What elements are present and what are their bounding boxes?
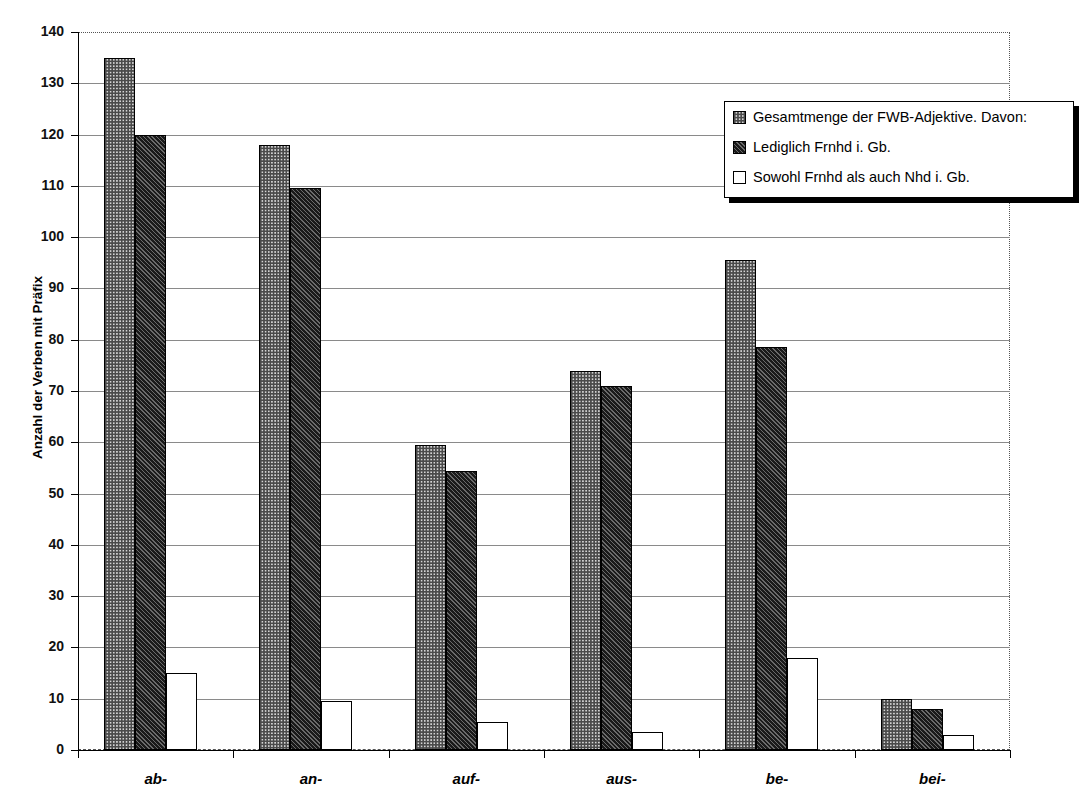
x-tick-label-aus: aus- — [562, 770, 682, 787]
x-tick-label-ab: ab- — [96, 770, 216, 787]
bar-ab-series-1 — [135, 135, 166, 750]
bar-auf-series-1 — [446, 471, 477, 751]
y-tick-label: 120 — [18, 126, 64, 142]
legend-label-2: Sowohl Frnhd als auch Nhd i. Gb. — [753, 169, 970, 185]
bar-ab-series-0 — [104, 58, 135, 750]
y-tick-label: 140 — [18, 23, 64, 39]
y-tick-label: 0 — [18, 741, 64, 757]
y-tick-label: 40 — [18, 536, 64, 552]
x-tick-label-an: an- — [251, 770, 371, 787]
y-tick-label: 130 — [18, 74, 64, 90]
x-tick-label-auf: auf- — [406, 770, 526, 787]
bar-bei-series-2 — [943, 735, 974, 750]
legend-swatch-icon-1 — [733, 141, 746, 154]
bar-an-series-0 — [259, 145, 290, 750]
y-tick-label: 30 — [18, 587, 64, 603]
legend-swatch-icon-0 — [733, 111, 746, 124]
y-tick-mark — [71, 699, 79, 700]
bar-be-series-1 — [756, 347, 787, 750]
y-tick-label: 110 — [18, 177, 64, 193]
y-tick-mark — [71, 442, 79, 443]
legend-label-1: Lediglich Frnhd i. Gb. — [753, 139, 891, 155]
bar-group — [79, 32, 234, 750]
legend-swatch-icon-2 — [733, 171, 746, 184]
y-tick-mark — [71, 135, 79, 136]
bar-an-series-1 — [290, 188, 321, 750]
y-tick-mark — [71, 237, 79, 238]
y-tick-label: 80 — [18, 331, 64, 347]
bar-group — [390, 32, 545, 750]
bar-auf-series-0 — [415, 445, 446, 750]
y-tick-label: 70 — [18, 382, 64, 398]
x-tick-mark — [544, 750, 545, 758]
y-tick-mark — [71, 545, 79, 546]
legend-label-0: Gesamtmenge der FWB-Adjektive. Davon: — [753, 109, 1027, 125]
y-tick-mark — [71, 494, 79, 495]
bar-an-series-2 — [321, 701, 352, 750]
legend-item-0: Gesamtmenge der FWB-Adjektive. Davon: — [725, 102, 1073, 132]
bar-group — [234, 32, 389, 750]
y-tick-mark — [71, 340, 79, 341]
bar-aus-series-2 — [632, 732, 663, 750]
x-tick-mark — [78, 750, 79, 758]
x-tick-label-be: be- — [717, 770, 837, 787]
x-tick-label-bei: bei- — [872, 770, 992, 787]
y-tick-mark — [71, 647, 79, 648]
x-tick-mark — [1010, 750, 1011, 758]
x-tick-mark — [389, 750, 390, 758]
legend-item-2: Sowohl Frnhd als auch Nhd i. Gb. — [725, 162, 1073, 192]
y-tick-label: 100 — [18, 228, 64, 244]
bar-bei-series-0 — [881, 699, 912, 750]
bar-aus-series-0 — [570, 371, 601, 751]
y-tick-label: 90 — [18, 279, 64, 295]
x-tick-mark — [855, 750, 856, 758]
bar-ab-series-2 — [166, 673, 197, 750]
y-tick-mark — [71, 391, 79, 392]
y-tick-mark — [71, 32, 79, 33]
bar-auf-series-2 — [477, 722, 508, 750]
bar-be-series-2 — [787, 658, 818, 750]
y-tick-mark — [71, 596, 79, 597]
y-axis-title: Anzahl der Verben mit Präfix — [30, 238, 45, 498]
y-tick-mark — [71, 186, 79, 187]
chart-legend: Gesamtmenge der FWB-Adjektive. Davon: Le… — [724, 101, 1074, 198]
bar-aus-series-1 — [601, 386, 632, 750]
x-tick-mark — [699, 750, 700, 758]
bar-group — [545, 32, 700, 750]
y-tick-label: 60 — [18, 433, 64, 449]
x-tick-mark — [233, 750, 234, 758]
y-tick-mark — [71, 83, 79, 84]
y-tick-label: 50 — [18, 485, 64, 501]
bar-be-series-0 — [725, 260, 756, 750]
y-tick-label: 10 — [18, 690, 64, 706]
legend-item-1: Lediglich Frnhd i. Gb. — [725, 132, 1073, 162]
y-tick-label: 20 — [18, 638, 64, 654]
y-tick-mark — [71, 288, 79, 289]
bar-bei-series-1 — [912, 709, 943, 750]
